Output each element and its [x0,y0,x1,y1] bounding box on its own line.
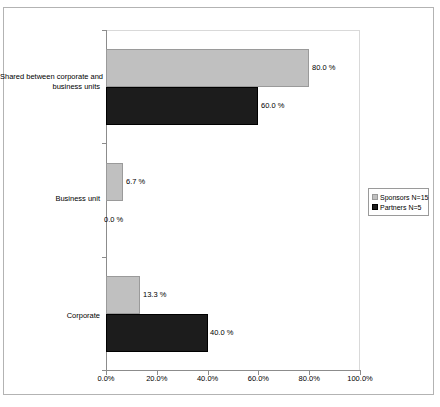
category-label-shared-line2: business units [0,82,100,92]
legend-label-sponsors: Sponsors N=15 [380,193,428,202]
category-label-corporate: Corporate [0,311,100,321]
legend-label-partners: Partners N=5 [380,203,421,212]
bar-sponsors-business-unit [106,163,123,201]
bar-sponsors-shared [106,49,309,87]
bar-label-partners-corporate: 40.0 % [210,328,233,337]
legend-swatch-partners-icon [372,204,378,210]
x-tick-label-100: 100.0% [340,374,380,383]
bar-label-sponsors-corporate: 13.3 % [143,290,166,299]
y-tick-mark [102,30,106,31]
plot-area: 80.0 % 60.0 % 6.7 % 0.0 % 13.3 % 40.0 % [106,30,360,370]
y-tick-mark [102,370,106,371]
category-label-shared-line1: Shared between corporate and [0,72,100,82]
bar-sponsors-corporate [106,276,140,314]
x-axis-line [106,370,361,371]
bar-label-sponsors-shared: 80.0 % [312,63,335,72]
y-tick-mark [102,143,106,144]
x-tick-label-40: 40.0% [188,374,228,383]
legend-item-partners: Partners N=5 [372,202,425,212]
legend-item-sponsors: Sponsors N=15 [372,192,425,202]
category-label-shared: Shared between corporate and business un… [0,72,100,92]
legend-swatch-sponsors-icon [372,194,378,200]
bar-label-sponsors-business-unit: 6.7 % [126,177,145,186]
bar-partners-shared [106,87,258,125]
x-tick-label-80: 80.0% [289,374,329,383]
chart-screenshot: Shared between corporate and business un… [0,0,440,407]
bar-partners-corporate [106,314,208,352]
x-tick-label-60: 60.0% [238,374,278,383]
bar-label-partners-shared: 60.0 % [261,101,284,110]
chart-legend: Sponsors N=15 Partners N=5 [368,188,429,216]
x-tick-label-20: 20.0% [137,374,177,383]
y-tick-mark [102,257,106,258]
category-label-business-unit: Business unit [0,194,100,204]
bar-label-partners-business-unit: 0.0 % [104,215,123,224]
x-tick-label-0: 0.0% [86,374,126,383]
